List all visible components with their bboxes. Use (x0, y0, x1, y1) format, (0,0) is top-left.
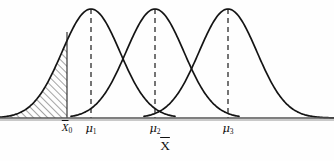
x-axis-label: X (160, 138, 170, 154)
tick-label-mu2-subscript: 2 (157, 127, 161, 136)
tick-label-x0: X0 (62, 121, 72, 133)
tick-label-x0-symbol: X (62, 121, 69, 133)
curve-distribution-1 (0, 9, 175, 117)
x-axis-label-text: X (160, 138, 170, 153)
tick-label-mu1-subscript: 1 (93, 127, 97, 136)
tick-label-x0-subscript: 0 (68, 126, 72, 135)
tick-label-mu3: μ3 (222, 121, 233, 135)
shaded-tail-region (0, 41, 67, 118)
tick-label-mu1: μ1 (85, 121, 96, 135)
curve-distribution-3 (144, 9, 334, 118)
tick-label-mu2: μ2 (149, 121, 160, 135)
tick-label-mu3-subscript: 3 (230, 127, 234, 136)
distribution-plot (0, 0, 334, 161)
statistical-power-figure: X0μ1μ2μ3 X (0, 0, 334, 161)
